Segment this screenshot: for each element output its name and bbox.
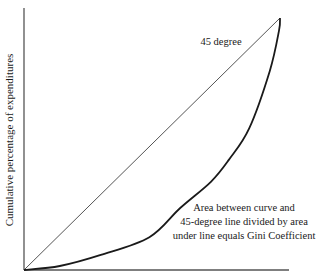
gini-note-line-2: 45-degree line divided by area [180, 216, 308, 227]
gini-note-line-1: Area between curve and [193, 202, 295, 213]
gini-note-line-3: under line equals Gini Coefficient [173, 230, 316, 241]
line-label-45-degree: 45 degree [200, 36, 241, 47]
y-axis-label: Cumulative percentage of expenditures [3, 54, 15, 227]
gini-chart: Cumulative percentage of expenditures 45… [0, 0, 319, 280]
